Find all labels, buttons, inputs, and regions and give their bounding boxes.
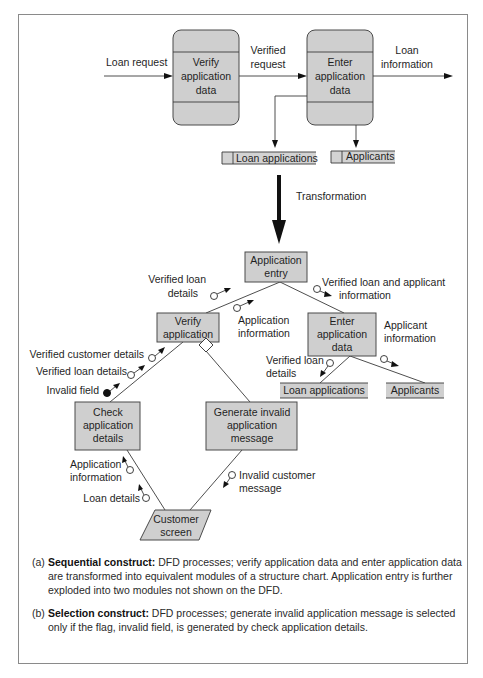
module-enter-application-data: Enter application data — [308, 313, 376, 356]
svg-text:Verified: Verified — [250, 44, 285, 56]
module-generate-invalid-message: Generate invalid application message — [206, 402, 297, 450]
caption-title: Selection construct: — [48, 607, 149, 619]
transformation-arrow: Transformation — [272, 175, 366, 244]
svg-text:details: details — [93, 432, 123, 444]
svg-text:Application: Application — [250, 254, 302, 266]
couple-application-information-bottom: Application information — [70, 456, 134, 483]
svg-text:application: application — [83, 419, 133, 431]
svg-text:request: request — [250, 58, 285, 70]
svg-text:Applicants: Applicants — [346, 150, 394, 162]
svg-text:application: application — [317, 328, 367, 340]
svg-text:details: details — [168, 287, 198, 299]
svg-text:Verified loan and applicant: Verified loan and applicant — [322, 276, 445, 288]
svg-text:Applicant: Applicant — [384, 319, 427, 331]
module-check-application-details: Check application details — [75, 402, 140, 450]
svg-text:application: application — [181, 70, 231, 82]
captions: (a) Sequential construct: DFD processes;… — [32, 555, 462, 643]
dfd-process-enter-application-data: Enter application data — [307, 30, 373, 125]
couple-verified-customer-details: Verified customer details — [30, 347, 165, 362]
svg-text:information: information — [70, 471, 122, 483]
svg-text:Loan details: Loan details — [83, 492, 140, 504]
svg-text:information: information — [238, 327, 290, 339]
dfd-process-verify-application-data: Verify application data — [173, 30, 239, 125]
caption-label: (b) — [32, 606, 45, 620]
svg-text:Verified customer details: Verified customer details — [30, 348, 144, 360]
svg-text:application: application — [315, 70, 365, 82]
svg-text:Verify: Verify — [175, 315, 202, 327]
svg-text:Customer: Customer — [153, 513, 199, 525]
svg-text:Check: Check — [93, 406, 124, 418]
couple-invalid-customer-message: Invalid customer message — [223, 469, 316, 494]
flow-verified-request: Verified request — [239, 44, 307, 79]
module-customer-screen: Customer screen — [140, 510, 211, 540]
flow-to-applicants — [353, 125, 359, 148]
module-verify-application: Verify application — [157, 313, 219, 342]
svg-text:Generate invalid: Generate invalid — [214, 406, 291, 418]
flow-loan-request: Loan request — [104, 56, 173, 79]
svg-text:Loan applications: Loan applications — [236, 152, 318, 164]
svg-text:Enter: Enter — [329, 315, 355, 327]
transformation-label: Transformation — [296, 190, 366, 202]
flow-label-loan-request: Loan request — [106, 56, 167, 68]
dfd-store-loan-applications: Loan applications — [222, 152, 318, 164]
couple-invalid-field-flag: Invalid field — [46, 383, 120, 397]
caption-title: Sequential construct: — [48, 556, 155, 568]
svg-text:Enter: Enter — [327, 56, 353, 68]
svg-text:Loan applications: Loan applications — [283, 384, 365, 396]
couple-application-information-top: Application information — [234, 300, 291, 339]
svg-text:application: application — [227, 419, 277, 431]
svg-text:data: data — [330, 84, 351, 96]
svg-text:message: message — [239, 482, 282, 494]
caption-sequential: (a) Sequential construct: DFD processes;… — [32, 555, 462, 597]
flow-loan-information: Loan information — [373, 44, 453, 79]
svg-text:information: information — [339, 289, 391, 301]
svg-text:screen: screen — [160, 526, 192, 538]
couple-loan-details: Loan details — [83, 484, 149, 504]
svg-text:Invalid field: Invalid field — [46, 384, 99, 396]
svg-text:Loan: Loan — [395, 44, 419, 56]
couple-verified-loan-details-left: Verified loan details — [36, 365, 145, 379]
couple-verified-loan-details-right: Verified loan details — [266, 354, 334, 379]
dfd-store-applicants: Applicants — [331, 150, 395, 163]
svg-text:data: data — [196, 84, 217, 96]
caption-label: (a) — [32, 555, 45, 569]
caption-selection: (b) Selection construct: DFD processes; … — [32, 606, 462, 634]
svg-text:data: data — [332, 341, 353, 353]
svg-text:Invalid customer: Invalid customer — [239, 469, 316, 481]
svg-text:Verified loan: Verified loan — [148, 273, 206, 285]
couple-verified-loan-and-applicant: Verified loan and applicant information — [314, 276, 446, 301]
svg-text:details: details — [266, 367, 296, 379]
module-applicants: Applicants — [386, 383, 444, 398]
svg-text:Verified loan details: Verified loan details — [36, 365, 127, 377]
svg-text:information: information — [384, 332, 436, 344]
svg-text:Verify: Verify — [193, 56, 220, 68]
flow-to-loan-applications — [272, 96, 307, 148]
svg-text:information: information — [381, 58, 433, 70]
module-application-entry: Application entry — [245, 252, 307, 282]
couple-verified-loan-details-top: Verified loan details — [148, 273, 231, 300]
svg-text:entry: entry — [264, 267, 288, 279]
svg-text:Application: Application — [238, 314, 290, 326]
svg-text:message: message — [231, 432, 274, 444]
module-loan-applications: Loan applications — [280, 383, 368, 398]
couple-applicant-information: Applicant information — [381, 319, 437, 367]
svg-text:Application: Application — [70, 458, 122, 470]
svg-text:Applicants: Applicants — [391, 384, 439, 396]
svg-text:Verified loan: Verified loan — [266, 354, 324, 366]
